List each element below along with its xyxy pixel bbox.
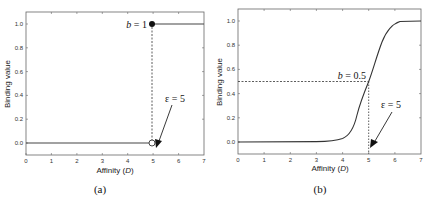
x-tick-label: 3 (315, 157, 319, 163)
arrowhead-icon (155, 139, 162, 148)
y-tick-label: 1.0 (15, 21, 24, 27)
y-tick-labels-b: 0.0 0.2 0.4 0.6 0.8 1.0 (227, 18, 236, 145)
y-tick-label: 0.4 (15, 92, 24, 98)
caption-a: (a) (94, 183, 107, 196)
filled-marker (149, 21, 155, 27)
x-tick-labels-b: 0 1 2 3 4 5 6 7 (236, 157, 423, 163)
x-tick-label: 6 (177, 158, 181, 164)
x-axis-label-b: Affinity (D) (311, 164, 349, 173)
x-tick-label: 5 (151, 158, 155, 164)
figure: 0 1 2 3 4 5 6 7 0.0 0.2 0.4 0.6 0.8 1.0 … (0, 0, 428, 201)
x-tick-label: 2 (75, 158, 79, 164)
y-axis-label-a: Binding value (3, 59, 12, 108)
x-ticks-a (26, 12, 179, 155)
y-axis-label-b: Binding value (215, 57, 224, 106)
epsilon-arrow-a (159, 105, 172, 141)
panel-a: 0 1 2 3 4 5 6 7 0.0 0.2 0.4 0.6 0.8 1.0 … (3, 12, 206, 196)
x-tick-label: 0 (24, 158, 28, 164)
x-tick-label: 1 (262, 157, 266, 163)
y-tick-label: 1.0 (227, 18, 236, 24)
y-tick-label: 0.8 (227, 42, 236, 48)
x-tick-label: 7 (202, 158, 206, 164)
epsilon-annotation-b: ε = 5 (381, 99, 401, 110)
x-tick-labels-a: 0 1 2 3 4 5 6 7 (24, 158, 206, 164)
x-axis-label-a: Affinity (D) (96, 166, 134, 175)
open-marker (149, 140, 155, 146)
b-annotation-b: b = 0.5 (338, 70, 366, 81)
x-tick-label: 7 (419, 157, 423, 163)
panel-b: 0 1 2 3 4 5 6 7 0.0 0.2 0.4 0.6 0.8 1.0 … (215, 9, 423, 196)
arrowhead-icon (370, 139, 378, 148)
x-tick-label: 1 (50, 158, 54, 164)
y-tick-labels-a: 0.0 0.2 0.4 0.6 0.8 1.0 (15, 21, 24, 146)
x-tick-label: 0 (236, 157, 240, 163)
y-ticks-a (26, 24, 204, 143)
x-tick-label: 3 (101, 158, 105, 164)
x-tick-label: 4 (341, 157, 345, 163)
y-tick-label: 0.0 (227, 139, 236, 145)
y-tick-label: 0.6 (15, 69, 24, 75)
y-tick-label: 0.2 (227, 115, 236, 121)
x-tick-label: 4 (126, 158, 130, 164)
x-tick-label: 6 (393, 157, 397, 163)
x-tick-label: 5 (367, 157, 371, 163)
y-tick-label: 0.6 (227, 66, 236, 72)
y-tick-label: 0.0 (15, 140, 24, 146)
epsilon-arrow-b (375, 112, 392, 141)
caption-b: (b) (314, 183, 327, 196)
plot-frame-a (26, 12, 204, 155)
y-tick-label: 0.2 (15, 116, 24, 122)
b-annotation-a: b = 1 (126, 19, 147, 30)
y-tick-label: 0.8 (15, 45, 24, 51)
x-tick-label: 2 (289, 157, 293, 163)
epsilon-annotation-a: ε = 5 (165, 93, 185, 104)
y-tick-label: 0.4 (227, 91, 236, 97)
